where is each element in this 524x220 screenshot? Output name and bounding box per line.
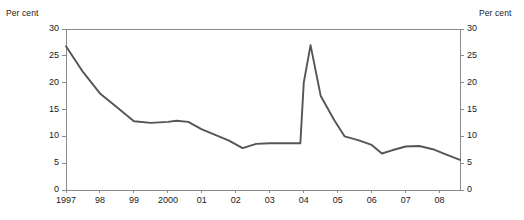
y-axis-tick-label-right: 0 xyxy=(467,184,491,194)
y-axis-tick-label-right: 5 xyxy=(467,157,491,167)
y-axis-tick-label-left: 10 xyxy=(35,130,59,140)
y-axis-tick-label-right: 15 xyxy=(467,104,491,114)
y-axis-tick-label-left: 5 xyxy=(35,157,59,167)
data-line xyxy=(66,45,460,160)
y-axis-tick-label-left: 20 xyxy=(35,77,59,87)
y-axis-tick-label-left: 0 xyxy=(35,184,59,194)
line-chart: Per cent Per cent 051015202530 051015202… xyxy=(0,0,524,220)
y-axis-tick-label-right: 25 xyxy=(467,50,491,60)
y-axis-tick-label-left: 30 xyxy=(35,23,59,33)
data-series-group xyxy=(66,45,460,160)
y-axis-tick-label-left: 15 xyxy=(35,104,59,114)
y-axis-tick-label-right: 20 xyxy=(467,77,491,87)
plot-area xyxy=(0,0,524,220)
y-axis-tick-label-right: 10 xyxy=(467,130,491,140)
axis-lines xyxy=(66,29,460,190)
x-axis-tick-label: 08 xyxy=(420,195,460,205)
y-axis-tick-label-right: 30 xyxy=(467,23,491,33)
y-axis-tick-label-left: 25 xyxy=(35,50,59,60)
